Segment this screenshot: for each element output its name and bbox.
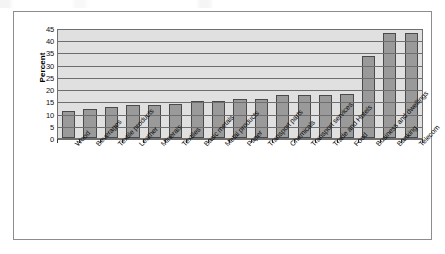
scan-artifact-strip — [0, 0, 445, 8]
bar-slot — [79, 30, 100, 138]
bar-chart: Percent 051015202530354045 WoodBeverages… — [13, 11, 432, 240]
bar[interactable] — [362, 56, 375, 138]
y-axis-tick-label: 0 — [50, 135, 54, 144]
y-axis: Percent 051015202530354045 — [39, 29, 57, 139]
y-axis-tick-label: 25 — [46, 73, 54, 82]
y-axis-tick-label: 30 — [46, 61, 54, 70]
bar-slot — [165, 30, 186, 138]
gridline — [58, 29, 422, 30]
gridline — [58, 53, 422, 54]
bar[interactable] — [405, 33, 418, 138]
bar-slot — [186, 30, 207, 138]
gridline — [58, 66, 422, 67]
bar-slot — [58, 30, 79, 138]
gridline — [58, 78, 422, 79]
gridline — [58, 90, 422, 91]
y-axis-tick-label: 5 — [50, 122, 54, 131]
gridline — [58, 41, 422, 42]
y-axis-tick-label: 35 — [46, 49, 54, 58]
y-axis-tick-label: 40 — [46, 37, 54, 46]
y-axis-tick-label: 20 — [46, 86, 54, 95]
y-axis-tick-label: 45 — [46, 25, 54, 34]
figure-container: Percent 051015202530354045 WoodBeverages… — [0, 0, 445, 254]
y-axis-tick-label: 15 — [46, 98, 54, 107]
y-axis-tick-label: 10 — [46, 110, 54, 119]
x-axis-labels: WoodBeveragesTextile productsLeatherMine… — [57, 142, 423, 237]
